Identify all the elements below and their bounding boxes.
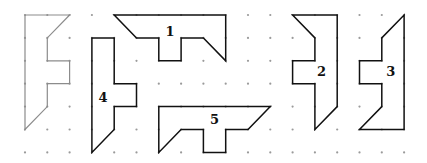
- grid-canvas: [0, 0, 427, 163]
- grid-dot: [135, 60, 137, 62]
- grid-dot: [69, 151, 71, 153]
- grid-dot: [202, 83, 204, 85]
- grid-dot: [24, 151, 26, 153]
- grid-dot: [46, 128, 48, 130]
- grid-dot: [46, 151, 48, 153]
- grid-dot: [247, 37, 249, 39]
- grid-dot: [269, 14, 271, 16]
- grid-dot: [158, 83, 160, 85]
- grid-dot: [358, 106, 360, 108]
- grid-dot: [292, 128, 294, 130]
- grid-dot: [292, 106, 294, 108]
- grid-dot: [336, 128, 338, 130]
- reference-shape: [25, 15, 70, 130]
- grid-dot: [180, 83, 182, 85]
- grid-dot: [292, 151, 294, 153]
- grid-dot: [358, 151, 360, 153]
- grid-dot: [269, 37, 271, 39]
- grid-dot: [381, 151, 383, 153]
- grid-dot: [269, 128, 271, 130]
- grid-dot: [358, 14, 360, 16]
- grid-dot: [292, 37, 294, 39]
- shape-label-4: 4: [99, 91, 108, 104]
- dot-grid-diagram: 12345: [0, 0, 427, 163]
- grid-dot: [202, 60, 204, 62]
- shape-label-3: 3: [386, 65, 395, 78]
- grid-dot: [135, 128, 137, 130]
- grid-dot: [69, 106, 71, 108]
- grid-dot: [269, 151, 271, 153]
- shape-label-2: 2: [317, 65, 326, 78]
- grid-dot: [336, 151, 338, 153]
- grid-dot: [247, 83, 249, 85]
- grid-dot: [269, 60, 271, 62]
- shape-3: [360, 15, 405, 130]
- grid-dot: [314, 151, 316, 153]
- grid-dot: [403, 151, 405, 153]
- reference-f-shape: [25, 15, 70, 130]
- shape-label-1: 1: [165, 25, 174, 38]
- grid-dot: [91, 14, 93, 16]
- shape-label-5: 5: [210, 113, 219, 126]
- grid-dot: [135, 151, 137, 153]
- grid-dots: [24, 14, 405, 154]
- grid-dot: [247, 14, 249, 16]
- grid-dot: [69, 37, 71, 39]
- grid-dot: [113, 151, 115, 153]
- grid-dot: [358, 37, 360, 39]
- grid-dot: [247, 60, 249, 62]
- shape-2: [293, 15, 338, 130]
- grid-dot: [69, 128, 71, 130]
- grid-dot: [225, 83, 227, 85]
- grid-dot: [381, 14, 383, 16]
- grid-dot: [247, 151, 249, 153]
- grid-dot: [180, 151, 182, 153]
- grid-dot: [269, 83, 271, 85]
